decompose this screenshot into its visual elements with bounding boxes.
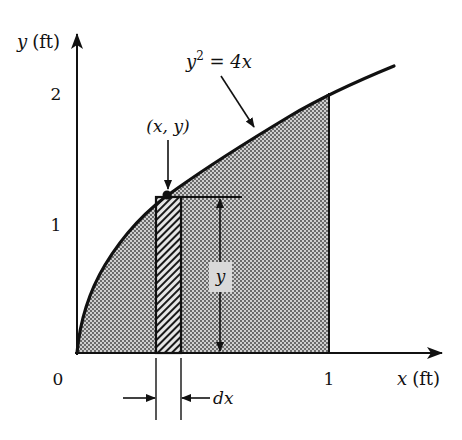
point-marker (163, 191, 172, 200)
dx-label: dx (213, 388, 234, 408)
area-diagram: y y(ft) x(ft) 2 1 0 1 y2 = 4x (x, y) dx (0, 0, 462, 440)
height-label: y (215, 266, 226, 286)
origin-label: 0 (53, 369, 64, 389)
y-tick-1: 1 (51, 215, 62, 235)
differential-strip (156, 197, 181, 353)
y-axis-label: y(ft) (16, 31, 60, 52)
equation-leader-arrow (221, 76, 254, 127)
curve-equation-label: y2 = 4x (185, 49, 252, 72)
x-axis-label: x(ft) (397, 368, 440, 389)
shaded-area-region (77, 93, 329, 353)
point-label: (x, y) (146, 116, 189, 136)
y-tick-2: 2 (51, 84, 62, 104)
x-tick-1: 1 (324, 369, 335, 389)
